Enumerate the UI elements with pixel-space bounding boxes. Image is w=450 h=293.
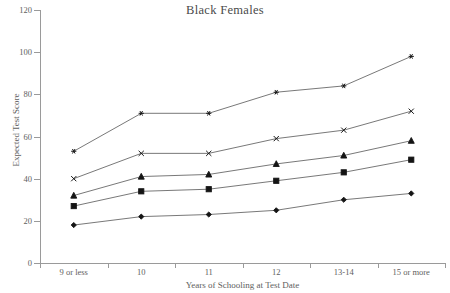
data-point-triangle (71, 192, 77, 198)
x-tick-label: 13-14 (307, 268, 381, 277)
data-point-triangle (273, 161, 279, 167)
data-point-x (274, 136, 279, 141)
data-point-square (341, 170, 346, 175)
data-point-star (206, 111, 211, 116)
data-point-diamond (341, 197, 346, 202)
data-point-diamond (409, 191, 414, 196)
y-tick-mark (34, 52, 40, 53)
x-tick-label: 9 or less (37, 268, 111, 277)
y-tick-label: 0 (0, 259, 32, 268)
y-tick-mark (34, 179, 40, 180)
y-tick-label: 120 (0, 6, 32, 15)
data-point-square (409, 157, 414, 162)
data-point-square (139, 189, 144, 194)
x-tick-label: 11 (172, 268, 246, 277)
data-point-triangle (408, 138, 414, 144)
data-point-triangle (341, 152, 347, 158)
chart-title: Black Females (0, 3, 450, 18)
series-line-x (74, 111, 412, 178)
data-point-square (274, 178, 279, 183)
data-point-diamond (206, 212, 211, 217)
data-point-star (341, 84, 346, 89)
data-point-x (71, 176, 76, 181)
data-point-triangle (138, 173, 144, 179)
y-tick-mark (34, 221, 40, 222)
data-point-diamond (139, 214, 144, 219)
series-plot (0, 0, 450, 293)
data-point-x (139, 151, 144, 156)
y-axis-title: Expected Test Score (11, 70, 21, 190)
y-tick-label: 40 (0, 175, 32, 184)
y-tick-mark (34, 94, 40, 95)
y-tick-label: 80 (0, 90, 32, 99)
y-tick-label: 60 (0, 133, 32, 142)
chart-container: Black Females Expected Test Score Years … (0, 0, 450, 293)
data-point-x (341, 128, 346, 133)
data-point-diamond (71, 222, 76, 227)
y-tick-mark (34, 137, 40, 138)
series-line-star (74, 56, 412, 151)
data-point-triangle (206, 171, 212, 177)
series-line-diamond (74, 193, 412, 225)
y-tick-label: 100 (0, 48, 32, 57)
y-axis-line (40, 10, 41, 263)
y-tick-label: 20 (0, 217, 32, 226)
data-point-star (274, 90, 279, 95)
x-tick-label: 12 (239, 268, 313, 277)
series-line-triangle (74, 141, 412, 196)
data-point-x (206, 151, 211, 156)
data-point-star (139, 111, 144, 116)
data-point-square (206, 187, 211, 192)
data-point-x (409, 109, 414, 114)
data-point-star (409, 54, 414, 59)
x-axis-title: Years of Schooling at Test Date (40, 280, 445, 290)
data-point-diamond (274, 208, 279, 213)
x-tick-label: 15 or more (374, 268, 448, 277)
y-tick-mark (34, 10, 40, 11)
series-line-square (74, 160, 412, 206)
data-point-square (71, 203, 76, 208)
data-point-star (71, 149, 76, 154)
x-tick-label: 10 (104, 268, 178, 277)
